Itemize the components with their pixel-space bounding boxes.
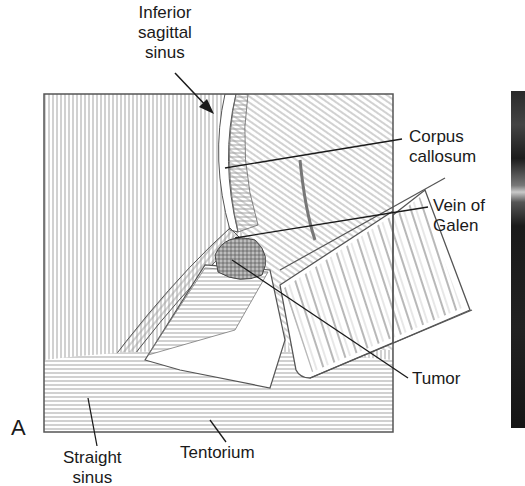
label-vein-of-galen: Vein of Galen [433,196,485,236]
label-corpus-callosum: Corpus callosum [409,127,476,167]
label-tumor: Tumor [412,369,461,389]
panel-letter: A [11,415,26,441]
label-tentorium: Tentorium [180,443,255,463]
label-straight-sinus: Straight sinus [63,448,122,486]
label-inferior-sagittal-sinus: Inferior sagittal sinus [138,3,192,63]
illustration [0,0,525,486]
adjacent-photo-edge [511,91,525,428]
